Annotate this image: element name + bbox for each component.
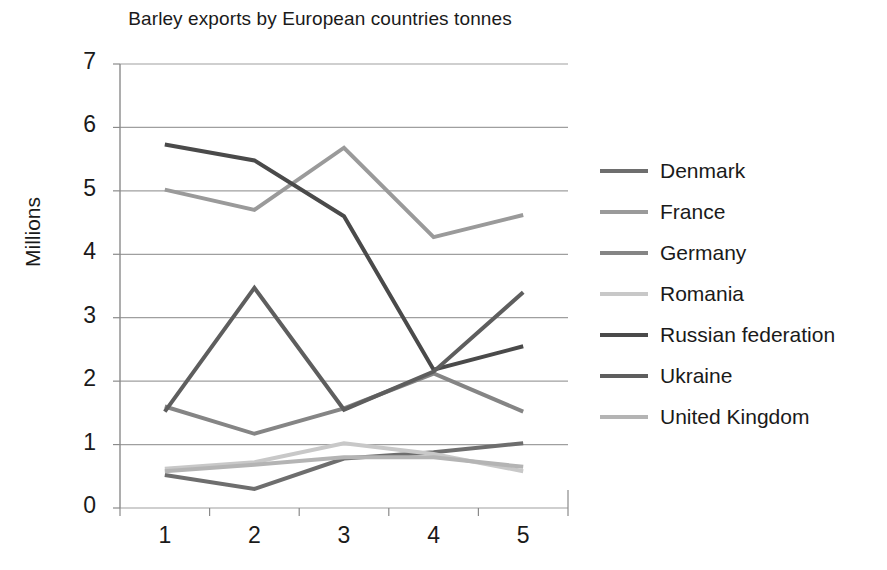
legend-item-label: Denmark <box>660 159 745 183</box>
legend-color-swatch <box>600 415 648 419</box>
legend-item[interactable]: United Kingdom <box>600 396 885 437</box>
legend-color-swatch <box>600 292 648 296</box>
series-lines <box>165 145 523 489</box>
y-tick-label: 0 <box>62 492 96 519</box>
x-tick-label: 2 <box>234 522 274 549</box>
chart-figure: Barley exports by European countries ton… <box>0 0 887 570</box>
legend-item-label: Russian federation <box>660 323 835 347</box>
x-tick-label: 4 <box>414 522 454 549</box>
series-line <box>165 288 523 412</box>
legend-item[interactable]: Germany <box>600 232 885 273</box>
y-tick-label: 6 <box>62 111 96 138</box>
x-tick-label: 3 <box>324 522 364 549</box>
legend-item-label: Germany <box>660 241 746 265</box>
legend-item-label: United Kingdom <box>660 405 809 429</box>
legend-color-swatch <box>600 374 648 378</box>
y-tick-label: 1 <box>62 429 96 456</box>
y-tick-label: 5 <box>62 175 96 202</box>
y-tick-label: 4 <box>62 238 96 265</box>
x-tick-label: 5 <box>503 522 543 549</box>
legend-color-swatch <box>600 210 648 214</box>
legend-item[interactable]: Russian federation <box>600 314 885 355</box>
y-tick-label: 2 <box>62 365 96 392</box>
legend-color-swatch <box>600 169 648 173</box>
legend-item[interactable]: Ukraine <box>600 355 885 396</box>
series-line <box>165 374 523 434</box>
legend-item[interactable]: Denmark <box>600 150 885 191</box>
series-line <box>165 148 523 237</box>
legend-color-swatch <box>600 251 648 255</box>
legend-item[interactable]: France <box>600 191 885 232</box>
chart-legend: DenmarkFranceGermanyRomaniaRussian feder… <box>600 150 885 437</box>
x-tick-label: 1 <box>145 522 185 549</box>
legend-item[interactable]: Romania <box>600 273 885 314</box>
gridlines <box>113 64 568 508</box>
legend-item-label: Ukraine <box>660 364 732 388</box>
legend-item-label: France <box>660 200 725 224</box>
legend-color-swatch <box>600 333 648 337</box>
y-tick-label: 3 <box>62 302 96 329</box>
legend-item-label: Romania <box>660 282 744 306</box>
x-axis-ticks <box>120 508 568 516</box>
y-tick-label: 7 <box>62 48 96 75</box>
